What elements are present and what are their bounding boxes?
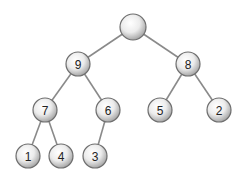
- node-label: 5: [157, 104, 164, 118]
- tree-node-root: [120, 14, 146, 40]
- node-label: 2: [216, 104, 223, 118]
- tree-node-3: 3: [83, 144, 107, 168]
- node-label: 6: [105, 104, 112, 118]
- tree-diagram: 987652143: [0, 0, 247, 183]
- tree-node-9: 9: [66, 52, 90, 76]
- node-label: 9: [75, 58, 82, 72]
- node-label: 7: [42, 104, 49, 118]
- tree-node-7: 7: [33, 98, 57, 122]
- tree-node-5: 5: [148, 98, 172, 122]
- tree-nodes: 987652143: [16, 14, 231, 168]
- node-label: 4: [58, 150, 65, 164]
- node-label: 3: [92, 150, 99, 164]
- tree-node-6: 6: [96, 98, 120, 122]
- tree-node-4: 4: [49, 144, 73, 168]
- node-label: 8: [185, 58, 192, 72]
- node-label: 1: [25, 150, 32, 164]
- tree-node-1: 1: [16, 144, 40, 168]
- tree-edges: [28, 27, 219, 156]
- node-circle: [120, 14, 146, 40]
- tree-node-2: 2: [207, 98, 231, 122]
- tree-node-8: 8: [176, 52, 200, 76]
